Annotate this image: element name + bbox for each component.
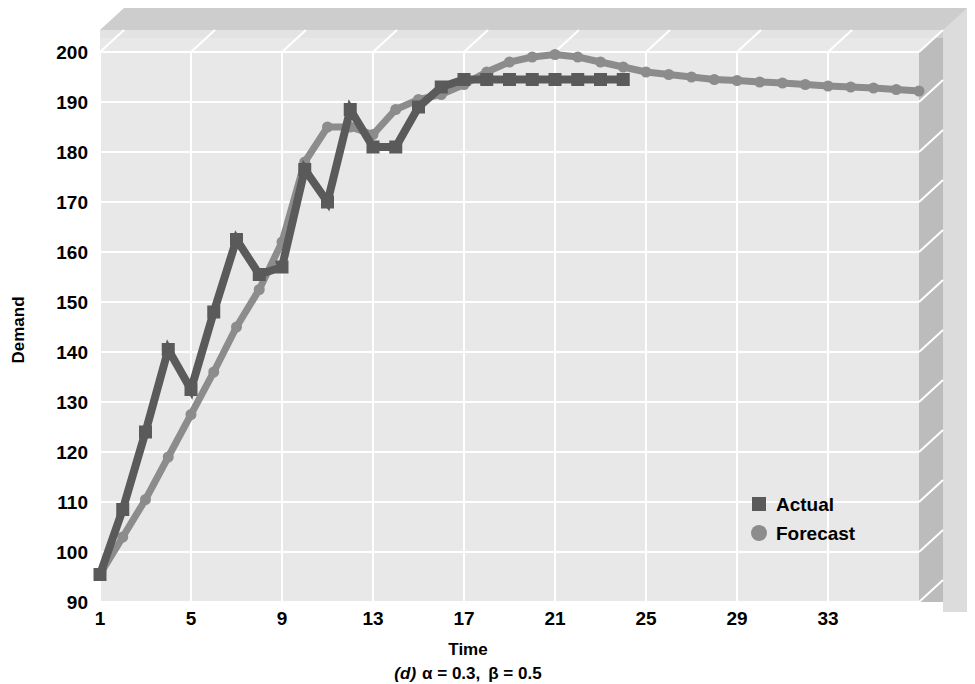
data-point-forecast-19 xyxy=(504,57,515,68)
chart-figure: 90100110120130140150160170180190200 1591… xyxy=(0,0,975,684)
data-point-actual-14 xyxy=(389,141,402,154)
data-point-forecast-6 xyxy=(208,367,219,378)
ceiling-slab xyxy=(100,8,967,30)
data-point-forecast-33 xyxy=(823,81,834,92)
data-point-forecast-26 xyxy=(663,69,674,80)
x-tick-25: 25 xyxy=(635,608,657,629)
y-tick-100: 100 xyxy=(56,542,88,563)
y-axis-title: Demand xyxy=(9,296,28,363)
data-point-actual-18 xyxy=(480,73,493,86)
data-point-forecast-32 xyxy=(800,79,811,90)
data-point-actual-5 xyxy=(185,383,198,396)
data-point-actual-3 xyxy=(139,426,152,439)
x-tick-5: 5 xyxy=(186,608,197,629)
data-point-forecast-7 xyxy=(231,322,242,333)
demand-forecast-chart: 90100110120130140150160170180190200 1591… xyxy=(0,0,975,684)
data-point-forecast-36 xyxy=(891,84,902,95)
data-point-actual-2 xyxy=(116,503,129,516)
data-point-actual-19 xyxy=(503,73,516,86)
data-point-forecast-29 xyxy=(732,75,743,86)
data-point-forecast-34 xyxy=(845,82,856,93)
legend-marker-actual xyxy=(752,497,766,511)
data-point-actual-12 xyxy=(344,103,357,116)
x-tick-9: 9 xyxy=(277,608,288,629)
caption-part-alpha: α = 0.3, xyxy=(422,664,480,683)
data-point-forecast-2 xyxy=(117,532,128,543)
data-point-actual-7 xyxy=(230,233,243,246)
data-point-forecast-22 xyxy=(572,52,583,63)
y-tick-90: 90 xyxy=(67,592,88,613)
x-tick-17: 17 xyxy=(453,608,474,629)
y-tick-200: 200 xyxy=(56,42,88,63)
data-point-actual-17 xyxy=(458,73,471,86)
x-tick-29: 29 xyxy=(726,608,747,629)
data-point-forecast-5 xyxy=(186,409,197,420)
ceiling-shadow xyxy=(100,30,943,38)
legend-label-forecast: Forecast xyxy=(776,523,856,544)
data-point-actual-6 xyxy=(207,306,220,319)
data-point-forecast-21 xyxy=(550,49,561,60)
data-point-actual-13 xyxy=(367,141,380,154)
data-point-forecast-14 xyxy=(390,104,401,115)
data-point-forecast-3 xyxy=(140,494,151,505)
data-point-forecast-11 xyxy=(322,122,333,133)
chart-3d-shell xyxy=(100,8,967,612)
x-tick-13: 13 xyxy=(362,608,383,629)
data-point-forecast-4 xyxy=(163,452,174,463)
y-tick-170: 170 xyxy=(56,192,88,213)
y-tick-180: 180 xyxy=(56,142,88,163)
y-tick-150: 150 xyxy=(56,292,88,313)
y-tick-130: 130 xyxy=(56,392,88,413)
data-point-forecast-25 xyxy=(641,67,652,78)
data-point-forecast-8 xyxy=(254,284,265,295)
data-point-forecast-28 xyxy=(709,74,720,85)
data-point-actual-20 xyxy=(526,73,539,86)
data-point-actual-23 xyxy=(594,73,607,86)
data-point-actual-1 xyxy=(94,568,107,581)
right-depth-wall xyxy=(919,30,943,602)
y-tick-120: 120 xyxy=(56,442,88,463)
data-point-forecast-37 xyxy=(914,86,925,97)
data-point-actual-10 xyxy=(298,163,311,176)
y-tick-140: 140 xyxy=(56,342,88,363)
x-tick-33: 33 xyxy=(817,608,838,629)
legend-label-actual: Actual xyxy=(776,494,834,515)
data-point-forecast-31 xyxy=(777,78,788,89)
data-point-actual-4 xyxy=(162,343,175,356)
data-point-forecast-30 xyxy=(754,77,765,88)
data-point-actual-16 xyxy=(435,81,448,94)
data-point-actual-22 xyxy=(571,73,584,86)
plot-background xyxy=(100,30,943,602)
data-point-forecast-27 xyxy=(686,72,697,83)
data-point-forecast-23 xyxy=(595,57,606,68)
x-axis-title: Time xyxy=(448,640,487,659)
data-point-forecast-35 xyxy=(868,83,879,94)
legend-marker-forecast xyxy=(751,525,767,541)
data-point-forecast-24 xyxy=(618,62,629,73)
data-point-actual-24 xyxy=(617,73,630,86)
x-tick-1: 1 xyxy=(95,608,106,629)
x-tick-21: 21 xyxy=(544,608,566,629)
data-point-actual-15 xyxy=(412,101,425,114)
data-point-forecast-20 xyxy=(527,52,538,63)
caption-part-label: (d) xyxy=(394,664,416,683)
y-tick-190: 190 xyxy=(56,92,88,113)
y-tick-160: 160 xyxy=(56,242,88,263)
data-point-actual-11 xyxy=(321,196,334,209)
data-point-actual-8 xyxy=(253,268,266,281)
data-point-actual-21 xyxy=(549,73,562,86)
data-point-actual-9 xyxy=(276,261,289,274)
caption-part-beta: β = 0.5 xyxy=(488,664,541,683)
y-tick-110: 110 xyxy=(57,492,88,513)
